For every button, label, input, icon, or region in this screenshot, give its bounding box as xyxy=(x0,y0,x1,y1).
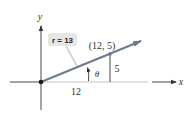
polar-diagram: r = 13 y x (12, 5) 5 12 θ xyxy=(0,0,194,118)
x-axis-label: x xyxy=(178,76,184,87)
point-label: (12, 5) xyxy=(89,40,116,52)
angle-arc-icon xyxy=(88,68,89,81)
y-axis-label: y xyxy=(37,11,43,22)
adjacent-label: 12 xyxy=(71,86,81,97)
origin-dot xyxy=(39,80,44,85)
radius-leader-line xyxy=(66,46,77,66)
opposite-label: 5 xyxy=(115,63,120,74)
point-marker xyxy=(108,52,112,56)
radius-label: r = 13 xyxy=(52,36,74,45)
angle-label: θ xyxy=(95,69,100,79)
